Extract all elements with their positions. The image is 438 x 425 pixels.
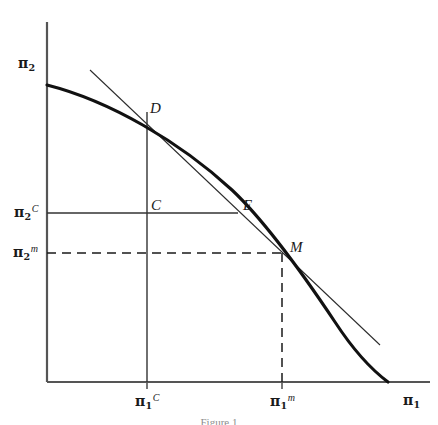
pi1m-symbol: π [270,393,280,409]
tick-label-pi1-c: π1C [135,393,159,411]
pi1m-subscript: 1 [280,400,287,411]
x-axis-label-subscript: 1 [413,399,420,410]
y-axis-label: π2 [18,56,35,73]
x-axis-label-symbol: π [403,392,413,408]
point-label-d: D [150,101,161,116]
pi1m-superscript: m [288,392,295,403]
pi2c-subscript: 2 [24,211,31,222]
pi2m-symbol: π [13,244,23,260]
point-label-c: C [151,198,161,213]
y-axis-label-symbol: π [18,55,28,71]
pi2m-superscript: m [31,243,38,254]
pi2m-subscript: 2 [23,251,30,262]
x-axis-label: π1 [403,393,420,410]
plot-canvas [0,0,438,425]
pi2c-superscript: C [32,203,39,214]
point-label-e: E [243,198,252,213]
pi2c-symbol: π [14,204,24,220]
y-axis-label-subscript: 2 [28,62,35,73]
profit-possibility-frontier-curve [47,85,388,382]
figure-caption: Figure 1 [0,416,438,425]
figure-root: π2 π2C π2m π1C π1m π1 D C E M Figure 1 [0,0,438,425]
pi1c-subscript: 1 [145,400,152,411]
iso-profit-tangent-line [90,70,380,345]
tick-label-pi2-c: π2C [14,204,38,222]
pi1c-superscript: C [153,392,160,403]
pi1c-symbol: π [135,393,145,409]
tick-label-pi1-m: π1m [270,393,295,411]
point-label-m: M [290,240,303,255]
tick-label-pi2-m: π2m [13,244,38,262]
